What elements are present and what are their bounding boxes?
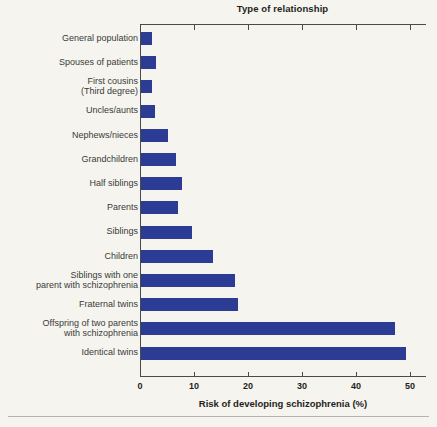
y-axis-category-labels: General populationSpouses of patientsFir… — [0, 24, 138, 377]
bar-first-cousins-third-degree — [141, 80, 152, 93]
bar-fill — [141, 105, 155, 118]
category-label-1: Spouses of patients — [3, 57, 138, 68]
x-tick-bottom-50 — [410, 372, 411, 377]
bar-fill — [141, 177, 182, 190]
category-label-6: Half siblings — [3, 178, 138, 189]
bar-children — [141, 250, 213, 263]
bar-siblings-with-one-parent-with-schizophrenia — [141, 274, 235, 287]
bar-unclesaunts — [141, 105, 155, 118]
x-tick-label-10: 10 — [189, 381, 199, 391]
bar-grandchildren — [141, 153, 176, 166]
category-label-7: Parents — [3, 202, 138, 213]
bar-fill — [141, 347, 406, 360]
bar-fill — [141, 226, 192, 239]
chart-title: Type of relationship — [140, 3, 425, 14]
bar-fill — [141, 298, 238, 311]
x-tick-bottom-0 — [140, 372, 141, 377]
bar-nephewsnieces — [141, 129, 168, 142]
category-label-2: First cousins (Third degree) — [3, 76, 138, 97]
bar-fill — [141, 80, 152, 93]
x-tick-top-10 — [194, 25, 195, 30]
x-tick-label-40: 40 — [351, 381, 361, 391]
x-tick-top-0 — [140, 25, 141, 30]
x-tick-top-40 — [356, 25, 357, 30]
x-tick-top-30 — [302, 25, 303, 30]
category-label-0: General population — [3, 33, 138, 44]
category-label-4: Nephews/nieces — [3, 130, 138, 141]
category-label-8: Siblings — [3, 226, 138, 237]
bar-spouses-of-patients — [141, 56, 156, 69]
x-tick-label-30: 30 — [297, 381, 307, 391]
bar-general-population — [141, 32, 152, 45]
bar-identical-twins — [141, 347, 406, 360]
bar-fill — [141, 201, 178, 214]
axis-top-line — [140, 24, 426, 25]
category-label-10: Siblings with one parent with schizophre… — [3, 270, 138, 291]
bar-offspring-of-two-parents-with-schizophrenia — [141, 322, 395, 335]
x-tick-bottom-40 — [356, 372, 357, 377]
axis-bottom-line — [140, 376, 426, 377]
x-tick-label-0: 0 — [137, 381, 142, 391]
category-label-11: Fraternal twins — [3, 299, 138, 310]
bar-half-siblings — [141, 177, 182, 190]
x-tick-bottom-20 — [248, 372, 249, 377]
category-label-5: Grandchildren — [3, 154, 138, 165]
footer-divider — [8, 416, 429, 417]
category-label-12: Offspring of two parents with schizophre… — [3, 318, 138, 339]
bar-fill — [141, 129, 168, 142]
bar-fill — [141, 274, 235, 287]
x-tick-label-20: 20 — [243, 381, 253, 391]
bar-fill — [141, 250, 213, 263]
bar-fraternal-twins — [141, 298, 238, 311]
x-tick-top-20 — [248, 25, 249, 30]
category-label-13: Identical twins — [3, 347, 138, 358]
x-tick-label-50: 50 — [405, 381, 415, 391]
plot-area: 01020304050 — [140, 24, 426, 377]
bar-fill — [141, 56, 156, 69]
bar-parents — [141, 201, 178, 214]
category-label-9: Children — [3, 251, 138, 262]
bar-siblings — [141, 226, 192, 239]
chart-figure: Type of relationship General populationS… — [0, 0, 437, 427]
x-tick-top-50 — [410, 25, 411, 30]
x-tick-bottom-30 — [302, 372, 303, 377]
bar-fill — [141, 153, 176, 166]
bar-fill — [141, 32, 152, 45]
x-tick-bottom-10 — [194, 372, 195, 377]
x-axis-title: Risk of developing schizophrenia (%) — [140, 398, 426, 409]
category-label-3: Uncles/aunts — [3, 105, 138, 116]
bar-fill — [141, 322, 395, 335]
